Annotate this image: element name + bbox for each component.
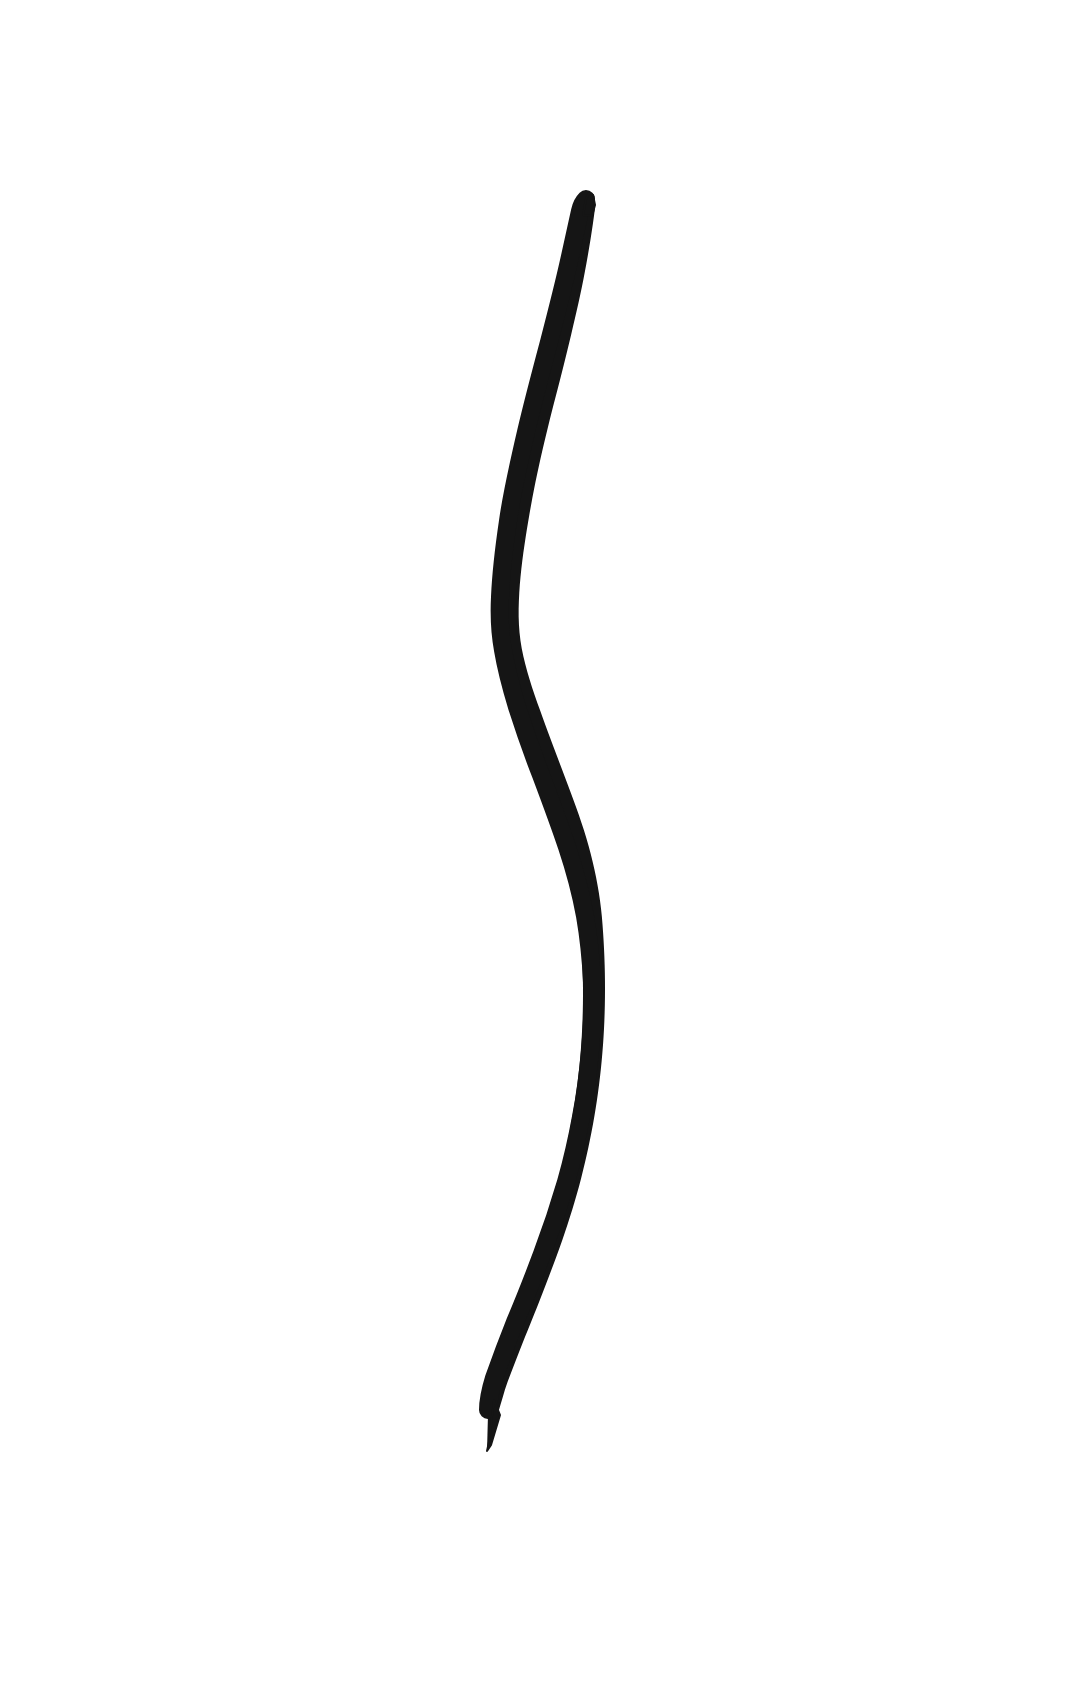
paper-background bbox=[0, 0, 1080, 1694]
brush-stroke-artwork bbox=[0, 0, 1080, 1694]
image-canvas: A single tall, slender, slightly S-curve… bbox=[0, 0, 1080, 1694]
